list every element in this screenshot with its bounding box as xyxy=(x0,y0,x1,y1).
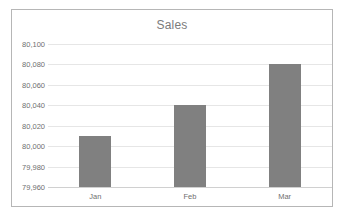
x-axis-tick-label: Mar xyxy=(245,192,325,201)
y-axis-tick-label: 80,080 xyxy=(11,60,45,69)
y-axis-tick-label: 79,980 xyxy=(11,162,45,171)
chart-title: Sales xyxy=(12,18,332,32)
chart-container: Sales 80,10080,08080,06080,04080,02080,0… xyxy=(11,9,333,207)
x-axis-tick-label: Jan xyxy=(55,192,135,201)
plot-area xyxy=(48,44,332,187)
y-axis: 80,10080,08080,06080,04080,02080,00079,9… xyxy=(12,44,45,187)
x-axis-line xyxy=(48,187,332,188)
bar-mar[interactable] xyxy=(269,64,301,187)
bar-feb[interactable] xyxy=(174,105,206,187)
y-axis-tick-label: 79,960 xyxy=(11,183,45,192)
y-axis-tick-label: 80,100 xyxy=(11,40,45,49)
y-axis-tick-label: 80,000 xyxy=(11,142,45,151)
x-axis-tick-label: Feb xyxy=(150,192,230,201)
gridline xyxy=(48,44,332,45)
y-axis-tick-label: 80,060 xyxy=(11,80,45,89)
bar-jan[interactable] xyxy=(79,136,111,187)
y-axis-tick-label: 80,020 xyxy=(11,121,45,130)
y-axis-tick-label: 80,040 xyxy=(11,101,45,110)
